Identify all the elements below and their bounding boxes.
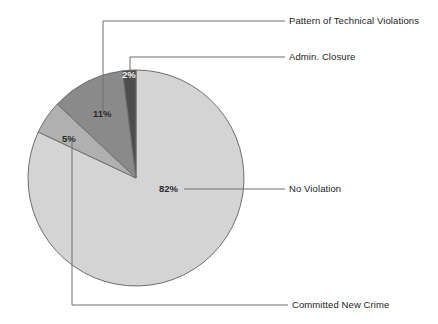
callout-label-pattern-of-technical-violations: Pattern of Technical Violations — [289, 15, 419, 26]
slice-value-pattern-of-technical-violations: 11% — [93, 108, 112, 119]
callout-label-no-violation: No Violation — [289, 183, 341, 194]
callout-label-admin-closure: Admin. Closure — [289, 51, 355, 62]
pie-chart-graphic — [0, 0, 438, 324]
slice-value-committed-new-crime: 5% — [62, 133, 76, 144]
callout-label-committed-new-crime: Committed New Crime — [292, 299, 389, 310]
pie-chart-figure: Pattern of Technical Violations Admin. C… — [0, 0, 438, 324]
slice-value-no-violation: 82% — [159, 183, 178, 194]
slice-value-admin-closure: 2% — [122, 69, 136, 80]
